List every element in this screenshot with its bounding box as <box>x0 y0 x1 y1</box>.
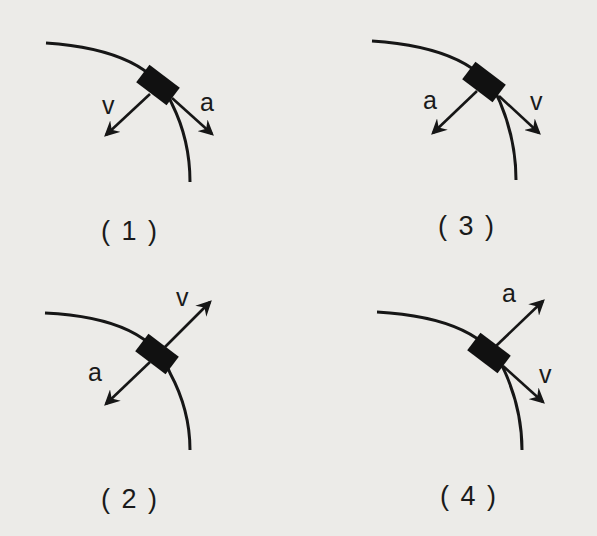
panel-caption: ( 3 ) <box>438 211 496 241</box>
acceleration-arrow <box>496 301 543 346</box>
acceleration-arrow <box>106 362 150 404</box>
panel-2: v a ( 2 ) <box>45 283 210 514</box>
panel-caption: ( 1 ) <box>101 216 159 246</box>
acceleration-label: a <box>423 86 437 114</box>
velocity-label: v <box>102 91 115 119</box>
velocity-label: v <box>176 283 189 311</box>
panel-3: a v ( 3 ) <box>372 41 543 241</box>
curved-path <box>377 312 522 450</box>
velocity-label: v <box>530 87 543 115</box>
panel-4: a v ( 4 ) <box>377 279 552 511</box>
diagram-canvas: v a ( 1 ) a v ( 3 ) v a ( 2 ) a v ( 4 ) <box>0 0 597 536</box>
curved-path <box>45 313 190 450</box>
curved-path <box>372 41 516 180</box>
acceleration-label: a <box>502 279 516 307</box>
curved-path <box>46 43 190 182</box>
panel-1: v a ( 1 ) <box>46 43 214 246</box>
panel-caption: ( 2 ) <box>101 484 159 514</box>
panel-caption: ( 4 ) <box>440 481 498 511</box>
acceleration-label: a <box>200 88 214 116</box>
acceleration-label: a <box>88 358 102 386</box>
acceleration-arrow <box>433 91 477 133</box>
velocity-label: v <box>539 360 552 388</box>
